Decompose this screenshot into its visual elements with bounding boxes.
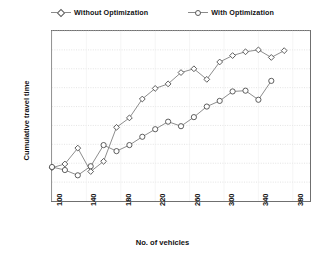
- x-tick-label: 340: [261, 193, 270, 206]
- x-tick-label: 220: [158, 193, 167, 206]
- x-tick-label: 300: [227, 193, 236, 206]
- x-tick-label: 180: [124, 193, 133, 206]
- x-axis: 100140180220260300340380: [0, 0, 325, 260]
- x-tick-label: 140: [89, 193, 98, 206]
- x-tick-label: 380: [296, 193, 305, 206]
- x-tick-label: 100: [55, 193, 64, 206]
- chart-container: Without Optimization With Optimization 3…: [0, 0, 325, 260]
- x-axis-title: No. of vehicles: [0, 238, 325, 247]
- x-tick-label: 260: [193, 193, 202, 206]
